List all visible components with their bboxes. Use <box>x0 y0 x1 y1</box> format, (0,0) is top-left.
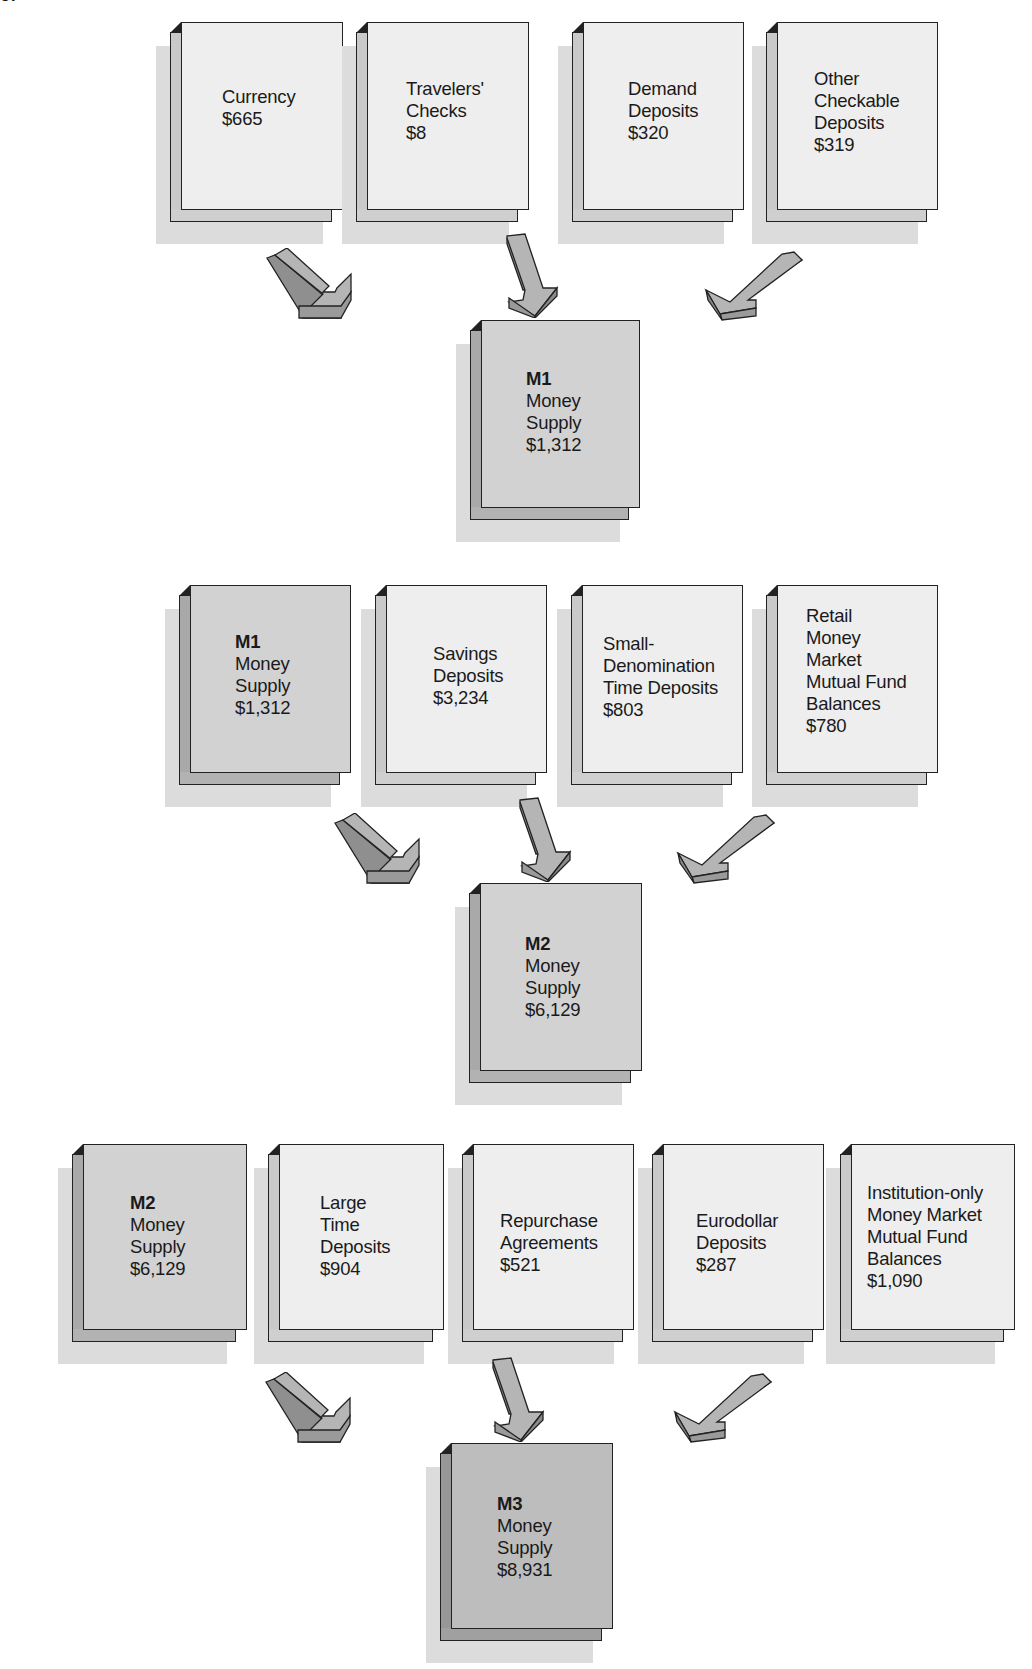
large-time-deposits-box: Large Time Deposits $904 <box>268 1144 444 1342</box>
demand-deposits-box: Demand Deposits $320 <box>572 22 744 222</box>
arrow-down-right-icon <box>265 248 365 320</box>
m1-money-supply-box: M1 Money Supply $1,312 <box>470 320 640 520</box>
retail-money-market-box: Retail Money Market Mutual Fund Balances… <box>766 585 938 785</box>
institution-only-money-market-box: Institution-only Money Market Mutual Fun… <box>840 1144 1015 1342</box>
other-checkable-deposits-box: Other Checkable Deposits $319 <box>766 22 938 222</box>
arrow-down-left-icon <box>673 1372 773 1444</box>
small-denomination-time-deposits-box: Small- Denomination Time Deposits $803 <box>571 585 743 785</box>
m2-money-supply-box: M2 Money Supply $6,129 <box>469 883 642 1083</box>
m1-input-box: M1 Money Supply $1,312 <box>179 585 351 785</box>
currency-box: Currency $665 <box>170 22 343 222</box>
corner-text: of <box>0 0 16 6</box>
arrow-down-right-icon <box>264 1372 364 1444</box>
eurodollar-deposits-box: Eurodollar Deposits $287 <box>652 1144 824 1342</box>
arrow-down-left-icon <box>676 813 776 885</box>
arrow-down-left-icon <box>704 250 804 322</box>
arrow-down-icon <box>491 1356 553 1442</box>
travelers-checks-box: Travelers' Checks $8 <box>356 22 529 222</box>
arrow-down-icon <box>505 232 567 318</box>
repurchase-agreements-box: Repurchase Agreements $521 <box>462 1144 634 1342</box>
arrow-down-right-icon <box>333 813 433 885</box>
m3-money-supply-box: M3 Money Supply $8,931 <box>440 1443 613 1641</box>
savings-deposits-box: Savings Deposits $3,234 <box>375 585 547 785</box>
m2-input-box: M2 Money Supply $6,129 <box>72 1144 247 1342</box>
arrow-down-icon <box>518 796 580 882</box>
